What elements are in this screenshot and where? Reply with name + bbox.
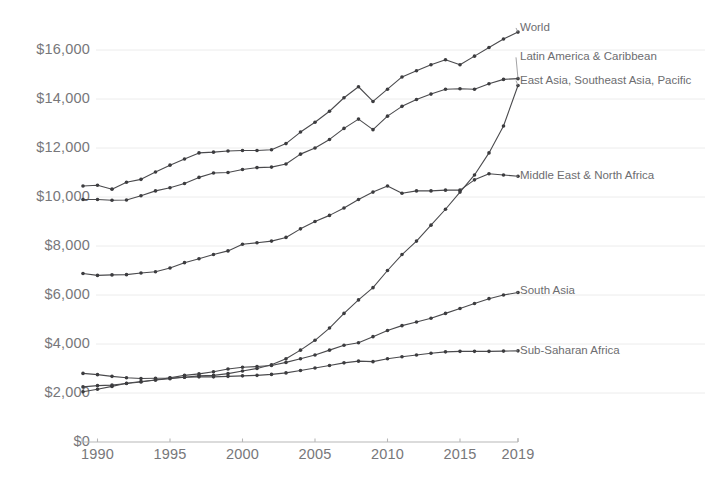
series-2-point-2017: [487, 151, 491, 155]
y-tick-label-10000: $10,000: [36, 188, 90, 204]
series-0-point-2018: [502, 37, 506, 41]
series-4-point-2017: [487, 297, 491, 301]
series-line-1: [83, 79, 518, 201]
series-line-0: [83, 32, 518, 189]
series-2-point-2004: [299, 348, 303, 352]
series-5-point-1998: [212, 375, 216, 379]
series-2-point-2006: [328, 326, 332, 330]
series-3-point-1994: [154, 270, 158, 274]
series-1-point-2018: [502, 78, 506, 82]
series-1-point-1990: [96, 198, 100, 202]
x-tick-label-2019: 2019: [501, 446, 534, 462]
series-1-point-2006: [328, 138, 332, 142]
series-4-point-1991: [110, 383, 114, 387]
series-5-point-1994: [154, 377, 158, 381]
series-5-point-2013: [429, 352, 433, 356]
x-tick-label-2000: 2000: [226, 446, 259, 462]
series-1-point-1994: [154, 189, 158, 193]
series-2-point-2012: [415, 239, 419, 243]
series-3-point-2014: [444, 188, 448, 192]
series-label-middle-east-north-africa: Middle East & North Africa: [520, 169, 655, 181]
series-5-point-1997: [197, 375, 201, 379]
series-0-point-2016: [473, 54, 477, 58]
series-lines-group: [83, 32, 518, 392]
series-line-5: [83, 351, 518, 379]
y-tick-label-6000: $6,000: [44, 286, 90, 302]
series-3-point-2000: [241, 242, 245, 246]
series-1-point-2013: [429, 92, 433, 96]
series-3-point-2005: [313, 220, 317, 224]
series-1-point-1999: [226, 171, 230, 175]
series-2-point-2008: [357, 298, 361, 302]
series-3-point-1992: [125, 273, 129, 277]
series-0-point-1995: [168, 163, 172, 167]
series-4-point-2000: [241, 365, 245, 369]
series-5-point-1989: [81, 372, 85, 376]
series-0-point-1998: [212, 150, 216, 154]
series-4-point-2011: [400, 324, 404, 328]
x-tick-label-1995: 1995: [153, 446, 186, 462]
series-1-point-1997: [197, 176, 201, 180]
series-1-point-2014: [444, 87, 448, 91]
series-5-point-1996: [183, 376, 187, 380]
series-2-point-2003: [284, 357, 288, 361]
series-5-point-2006: [328, 364, 332, 368]
series-3-point-2016: [473, 178, 477, 182]
series-5-point-2017: [487, 350, 491, 354]
series-0-point-2005: [313, 120, 317, 124]
series-2-point-2013: [429, 223, 433, 227]
series-1-point-2011: [400, 105, 404, 109]
series-0-point-2014: [444, 58, 448, 62]
series-0-point-2017: [487, 46, 491, 50]
series-0-point-2000: [241, 149, 245, 153]
series-1-point-1998: [212, 171, 216, 175]
series-0-point-2010: [386, 87, 390, 91]
y-tick-label-12000: $12,000: [36, 139, 90, 155]
series-label-south-asia: South Asia: [520, 284, 576, 296]
series-0-point-2006: [328, 109, 332, 113]
series-1-point-2007: [342, 127, 346, 131]
series-label-sub-saharan-africa: Sub-Saharan Africa: [520, 344, 620, 356]
series-1-point-1993: [139, 194, 143, 198]
series-1-point-2009: [371, 128, 375, 132]
series-0-point-2015: [458, 63, 462, 67]
series-5-point-1992: [125, 376, 129, 380]
series-5-point-2003: [284, 371, 288, 375]
series-2-point-2007: [342, 312, 346, 316]
series-0-point-2012: [415, 69, 419, 73]
series-1-point-1991: [110, 198, 114, 202]
series-5-point-2014: [444, 350, 448, 354]
series-5-point-2004: [299, 369, 303, 373]
series-4-point-1990: [96, 384, 100, 388]
series-1-point-1996: [183, 182, 187, 186]
series-1-point-2005: [313, 146, 317, 150]
series-4-point-2014: [444, 312, 448, 316]
series-0-point-1999: [226, 149, 230, 153]
series-0-point-1994: [154, 170, 158, 174]
y-tick-label-16000: $16,000: [36, 41, 90, 57]
series-3-point-2010: [386, 184, 390, 188]
series-4-point-2003: [284, 361, 288, 365]
series-5-point-2016: [473, 350, 477, 354]
series-3-point-2001: [255, 241, 259, 245]
series-1-point-1989: [81, 198, 85, 202]
series-1-point-2008: [357, 117, 361, 121]
series-1-point-2017: [487, 82, 491, 86]
series-3-point-1998: [212, 253, 216, 257]
series-4-point-2018: [502, 293, 506, 297]
chart-canvas: $0$2,000$4,000$6,000$8,000$10,000$12,000…: [0, 0, 715, 498]
series-5-point-2008: [357, 359, 361, 363]
series-5-point-2005: [313, 366, 317, 370]
series-1-point-2002: [270, 165, 274, 169]
series-5-point-2011: [400, 355, 404, 359]
y-tick-label-14000: $14,000: [36, 90, 90, 106]
series-3-point-1999: [226, 249, 230, 253]
series-0-point-1991: [110, 187, 114, 191]
series-3-point-1990: [96, 274, 100, 278]
series-3-point-1997: [197, 257, 201, 261]
line-chart: $0$2,000$4,000$6,000$8,000$10,000$12,000…: [0, 0, 715, 498]
series-labels-group: WorldLatin America & CaribbeanEast Asia,…: [516, 21, 692, 356]
y-tick-label-4000: $4,000: [44, 335, 90, 351]
series-3-point-2013: [429, 189, 433, 193]
series-4-point-2010: [386, 329, 390, 333]
